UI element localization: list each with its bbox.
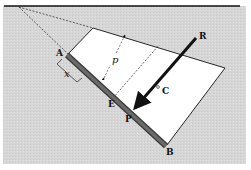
centroid-C bbox=[157, 86, 160, 89]
label-R: R bbox=[199, 31, 207, 41]
label-E: E bbox=[108, 99, 115, 109]
label-C: C bbox=[162, 86, 169, 96]
label-A: A bbox=[55, 48, 64, 58]
label-p: p bbox=[112, 54, 119, 65]
label-B: B bbox=[166, 147, 174, 157]
label-P: P bbox=[125, 114, 132, 124]
plate-pressure-diagram: p x A B C E P R bbox=[0, 0, 251, 170]
label-x: x bbox=[64, 68, 70, 79]
